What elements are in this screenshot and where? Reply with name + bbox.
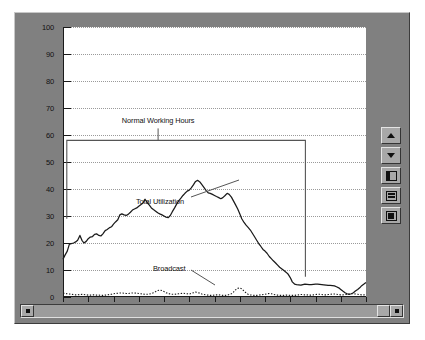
x-axis-tick bbox=[63, 297, 64, 302]
x-axis-tick bbox=[240, 297, 241, 302]
pane-icon bbox=[386, 171, 397, 181]
x-axis-tick bbox=[316, 297, 317, 302]
arrow-left-icon bbox=[26, 309, 30, 313]
x-axis-tick bbox=[139, 297, 140, 302]
vertical-bars-icon bbox=[386, 211, 397, 221]
chart-window: 010203040506070809010008:1509:1510:1501:… bbox=[14, 12, 410, 324]
x-axis-tick bbox=[341, 297, 342, 302]
chart-canvas: 010203040506070809010008:1509:1510:1501:… bbox=[21, 19, 379, 307]
y-axis-label: 100 bbox=[21, 23, 54, 32]
broadcast-label: Broadcast bbox=[153, 264, 185, 273]
arrow-right-icon bbox=[395, 309, 399, 313]
y-axis-label: 80 bbox=[21, 77, 54, 86]
scrollbar-thumb[interactable] bbox=[377, 305, 390, 317]
y-axis-label: 40 bbox=[21, 185, 54, 194]
x-axis-tick bbox=[88, 297, 89, 302]
y-axis-label: 60 bbox=[21, 131, 54, 140]
y-axis-label: 10 bbox=[21, 266, 54, 275]
x-axis-tick bbox=[290, 297, 291, 302]
y-axis-label: 90 bbox=[21, 50, 54, 59]
horizontal-lines-icon bbox=[386, 191, 397, 201]
y-axis-label: 0 bbox=[21, 293, 54, 302]
x-axis-tick bbox=[215, 297, 216, 302]
x-axis-tick bbox=[114, 297, 115, 302]
scrollbar-trough[interactable] bbox=[34, 305, 390, 317]
column-view-button[interactable] bbox=[381, 207, 401, 224]
y-axis-label: 20 bbox=[21, 239, 54, 248]
y-axis-tick bbox=[63, 297, 71, 298]
triangle-down-icon bbox=[387, 153, 395, 158]
y-axis-label: 70 bbox=[21, 104, 54, 113]
scroll-down-button[interactable] bbox=[381, 147, 401, 164]
x-axis-tick bbox=[265, 297, 266, 302]
y-axis-label: 30 bbox=[21, 212, 54, 221]
triangle-up-icon bbox=[387, 133, 395, 138]
x-axis-tick bbox=[189, 297, 190, 302]
x-axis-tick bbox=[164, 297, 165, 302]
scroll-right-button[interactable] bbox=[390, 305, 403, 317]
y-axis-label: 50 bbox=[21, 158, 54, 167]
x-axis-tick bbox=[366, 297, 367, 302]
row-view-button[interactable] bbox=[381, 187, 401, 204]
broadcast-leader-line bbox=[63, 27, 366, 297]
chart-toolbar bbox=[381, 127, 403, 227]
horizontal-scrollbar[interactable] bbox=[20, 304, 404, 318]
scroll-up-button[interactable] bbox=[381, 127, 401, 144]
pane-view-button[interactable] bbox=[381, 167, 401, 184]
scroll-left-button[interactable] bbox=[21, 305, 34, 317]
